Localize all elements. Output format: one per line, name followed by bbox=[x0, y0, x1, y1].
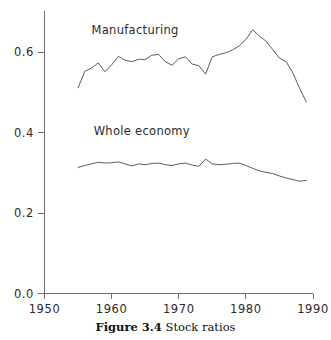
figure-container: 0.00.20.40.6 19501960197019801990 Manufa… bbox=[0, 0, 331, 340]
y-tick-label: 0.6 bbox=[14, 45, 34, 59]
y-tick-label: 0.2 bbox=[14, 206, 34, 220]
series-label-whole-economy: Whole economy bbox=[94, 124, 190, 138]
y-axis-ticks bbox=[38, 52, 45, 294]
figure-caption: Figure 3.4 Stock ratios bbox=[0, 320, 331, 334]
caption-text: Stock ratios bbox=[166, 320, 236, 334]
x-tick-label: 1950 bbox=[29, 302, 61, 316]
x-tick-label: 1960 bbox=[96, 302, 128, 316]
caption-label: Figure 3.4 bbox=[96, 320, 162, 334]
series-line-whole-economy bbox=[78, 159, 306, 181]
x-axis-ticks bbox=[45, 294, 314, 300]
x-tick-label: 1970 bbox=[163, 302, 195, 316]
y-axis-tick-labels: 0.00.20.40.6 bbox=[14, 45, 34, 301]
stock-ratios-chart: 0.00.20.40.6 19501960197019801990 Manufa… bbox=[0, 0, 331, 340]
series-lines bbox=[78, 30, 306, 181]
series-line-manufacturing bbox=[78, 30, 306, 102]
y-tick-label: 0.0 bbox=[14, 287, 34, 301]
axes-group bbox=[45, 11, 314, 294]
series-label-manufacturing: Manufacturing bbox=[92, 23, 179, 37]
x-axis-tick-labels: 19501960197019801990 bbox=[29, 302, 329, 316]
series-annotations: ManufacturingWhole economy bbox=[92, 23, 190, 138]
x-tick-label: 1980 bbox=[230, 302, 262, 316]
y-tick-label: 0.4 bbox=[14, 126, 34, 140]
x-tick-label: 1990 bbox=[297, 302, 329, 316]
